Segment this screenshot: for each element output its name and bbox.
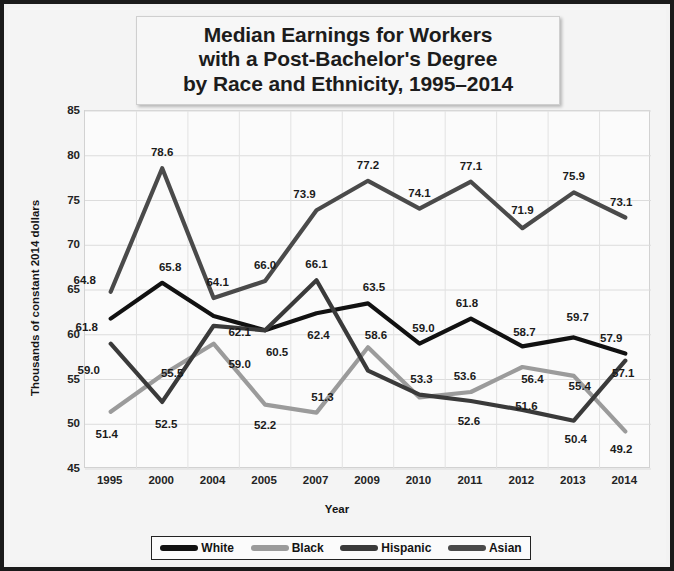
- y-tick-label: 45: [40, 462, 80, 474]
- plot-area: 64.861.859.051.478.665.855.552.564.162.1…: [84, 110, 650, 468]
- data-point-label: 55.5: [161, 367, 183, 379]
- legend-swatch-icon: [340, 545, 378, 551]
- y-axis-ticks: 455055606570758085: [36, 110, 80, 468]
- chart-title: Median Earnings for Workers with a Post-…: [136, 16, 560, 105]
- x-tick-label: 2004: [200, 474, 226, 486]
- data-point-label: 50.4: [565, 433, 587, 445]
- data-point-label: 55.4: [569, 380, 591, 392]
- data-point-label: 59.0: [412, 322, 434, 334]
- legend-item-black[interactable]: Black: [251, 541, 324, 555]
- data-point-label: 66.1: [305, 258, 327, 270]
- legend-label: Hispanic: [381, 541, 431, 555]
- x-tick-label: 2000: [148, 474, 174, 486]
- data-point-label: 57.9: [600, 332, 622, 344]
- data-point-label: 49.2: [610, 443, 632, 455]
- data-point-label: 61.8: [456, 297, 478, 309]
- x-tick-label: 2013: [560, 474, 586, 486]
- legend-item-white[interactable]: White: [160, 541, 234, 555]
- data-point-label: 75.9: [563, 170, 585, 182]
- chart-frame: Median Earnings for Workers with a Post-…: [0, 0, 674, 571]
- x-tick-label: 2014: [611, 474, 637, 486]
- title-line-3: by Race and Ethnicity, 1995–2014: [143, 72, 553, 96]
- y-tick-label: 60: [40, 328, 80, 340]
- x-tick-label: 2005: [251, 474, 277, 486]
- legend-swatch-icon: [251, 545, 289, 551]
- chart-legend: WhiteBlackHispanicAsian: [151, 536, 531, 560]
- data-point-label: 73.9: [293, 188, 315, 200]
- data-point-label: 64.1: [206, 276, 228, 288]
- x-tick-label: 2007: [303, 474, 329, 486]
- data-point-label: 77.1: [460, 160, 482, 172]
- data-point-label: 77.2: [357, 159, 379, 171]
- legend-label: Black: [292, 541, 324, 555]
- y-tick-label: 70: [40, 238, 80, 250]
- data-point-label: 65.8: [159, 261, 181, 273]
- data-point-label: 62.4: [307, 329, 329, 341]
- chart-canvas: Median Earnings for Workers with a Post-…: [8, 8, 666, 563]
- data-point-label: 78.6: [151, 146, 173, 158]
- x-tick-label: 2012: [509, 474, 535, 486]
- y-tick-label: 75: [40, 194, 80, 206]
- title-line-2: with a Post-Bachelor's Degree: [143, 47, 553, 71]
- legend-swatch-icon: [160, 545, 198, 551]
- data-point-label: 62.1: [228, 326, 250, 338]
- data-point-label: 53.3: [410, 373, 432, 385]
- data-point-label: 51.3: [311, 391, 333, 403]
- data-point-label: 59.7: [567, 311, 589, 323]
- legend-swatch-icon: [448, 545, 486, 551]
- data-point-label: 58.6: [365, 329, 387, 341]
- data-point-label: 51.6: [515, 400, 537, 412]
- data-point-label: 74.1: [408, 187, 430, 199]
- data-point-label: 51.4: [96, 428, 118, 440]
- data-point-label: 71.9: [511, 204, 533, 216]
- series-line-asian: [111, 168, 626, 298]
- data-point-label: 73.1: [610, 196, 632, 208]
- x-axis-ticks: 1995200020042005200720092010201120122013…: [84, 474, 650, 494]
- data-point-label: 58.7: [513, 326, 535, 338]
- x-tick-label: 2009: [354, 474, 380, 486]
- title-line-1: Median Earnings for Workers: [143, 23, 553, 47]
- data-point-label: 52.2: [254, 419, 276, 431]
- data-point-label: 57.1: [612, 367, 634, 379]
- legend-item-hispanic[interactable]: Hispanic: [340, 541, 431, 555]
- data-point-label: 61.8: [76, 321, 98, 333]
- y-tick-label: 55: [40, 373, 80, 385]
- legend-label: White: [201, 541, 234, 555]
- data-point-label: 56.4: [521, 373, 543, 385]
- data-point-label: 63.5: [363, 281, 385, 293]
- y-tick-label: 80: [40, 149, 80, 161]
- legend-item-asian[interactable]: Asian: [448, 541, 522, 555]
- data-point-label: 59.0: [228, 358, 250, 370]
- data-point-label: 52.6: [458, 415, 480, 427]
- legend-label: Asian: [489, 541, 522, 555]
- x-tick-label: 2010: [406, 474, 432, 486]
- data-point-label: 52.5: [155, 418, 177, 430]
- data-point-label: 60.5: [266, 346, 288, 358]
- x-tick-label: 2011: [457, 474, 482, 486]
- x-axis-title: Year: [8, 503, 666, 515]
- data-point-label: 64.8: [74, 274, 96, 286]
- x-tick-label: 1995: [97, 474, 123, 486]
- y-tick-label: 85: [40, 104, 80, 116]
- data-point-label: 66.0: [254, 259, 276, 271]
- data-point-label: 53.6: [454, 370, 476, 382]
- y-tick-label: 50: [40, 417, 80, 429]
- data-point-label: 59.0: [78, 364, 100, 376]
- series-line-black: [111, 344, 626, 432]
